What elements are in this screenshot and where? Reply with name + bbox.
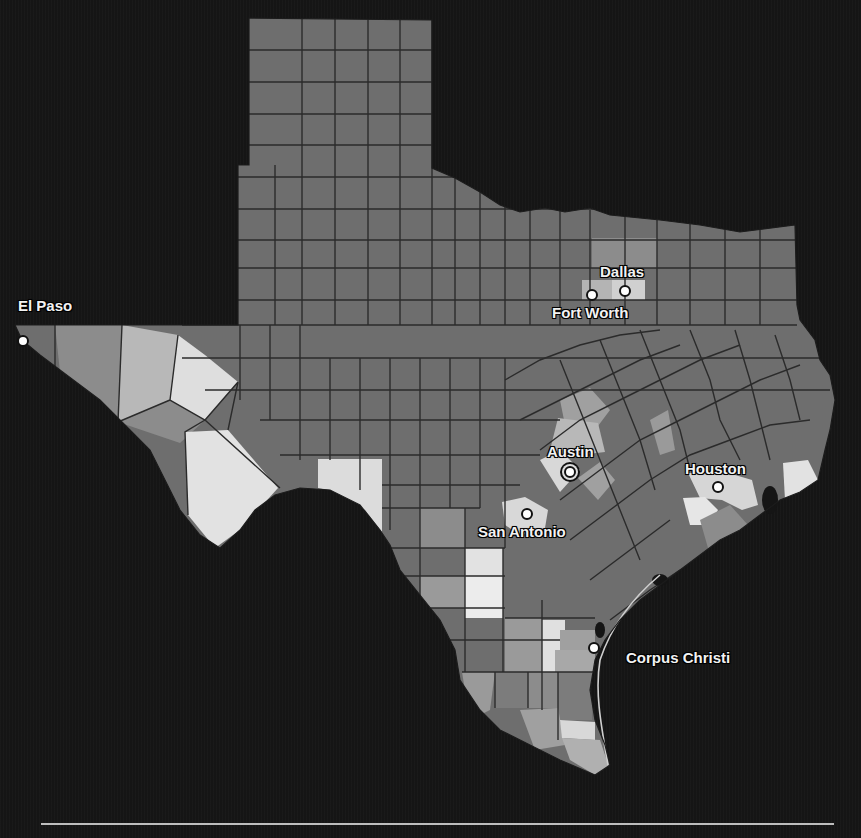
city-label-houston: Houston <box>685 460 746 477</box>
city-label-san-antonio: San Antonio <box>478 523 566 540</box>
city-dot-el-paso[interactable] <box>17 335 29 347</box>
county-highlight-willacy <box>560 720 595 740</box>
county-highlight-jim-hogg <box>495 672 528 708</box>
county-highlight-kenedy <box>558 672 592 720</box>
city-dot-dallas[interactable] <box>619 285 631 297</box>
city-label-austin: Austin <box>547 443 594 460</box>
city-dot-corpus-christi[interactable] <box>588 642 600 654</box>
city-dot-san-antonio[interactable] <box>521 508 533 520</box>
county-highlight-kleberg <box>555 650 595 675</box>
county-highlight-brooks <box>528 672 558 708</box>
city-dot-houston[interactable] <box>712 481 724 493</box>
city-label-corpus-christi: Corpus Christi <box>626 649 730 666</box>
texas-county-map <box>0 0 861 838</box>
county-highlight-duval <box>505 618 542 672</box>
county-highlight-la-salle <box>465 576 503 618</box>
county-highlight-zavala-n <box>420 508 465 548</box>
city-dot-austin-capital[interactable] <box>564 466 576 478</box>
city-dot-fort-worth[interactable] <box>586 289 598 301</box>
county-highlight-frio <box>465 548 503 576</box>
county-highlight-el-paso-east <box>55 325 122 420</box>
city-label-dallas: Dallas <box>600 263 644 280</box>
city-label-fort-worth: Fort Worth <box>552 304 628 321</box>
bottom-divider <box>41 823 834 825</box>
city-label-el-paso: El Paso <box>18 297 72 314</box>
